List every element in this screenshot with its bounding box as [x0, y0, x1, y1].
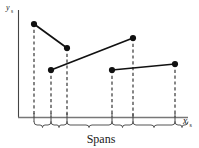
y-axis-label-main: y: [5, 3, 10, 12]
x-axis-label-main: x: [182, 116, 188, 126]
data-point-p5: [130, 35, 136, 41]
droplines-group: [34, 24, 175, 117]
y-axis-label-subscript: s: [11, 8, 13, 14]
span-bracket-2: [51, 122, 67, 128]
data-point-p6: [172, 61, 178, 67]
span-bracket-1: [34, 122, 51, 128]
data-point-p2: [48, 67, 54, 73]
span-brackets-group: [34, 122, 188, 128]
chart-figure: x s y s Spans: [0, 0, 199, 148]
chart-caption: Spans: [87, 132, 116, 146]
span-segment-3: [112, 64, 175, 70]
data-point-p4: [109, 67, 115, 73]
axes-group: [18, 10, 188, 118]
span-segment-2: [51, 38, 133, 70]
span-segments-group: [34, 24, 175, 70]
span-bracket-3: [67, 122, 112, 128]
data-point-p3: [64, 45, 70, 51]
y-axis-label: y s: [5, 3, 13, 14]
spans-plot: x s y s Spans: [0, 0, 199, 148]
span-segment-1: [34, 24, 67, 48]
data-point-p1: [31, 21, 37, 27]
x-axis-label-subscript: s: [190, 122, 193, 128]
span-bracket-5: [133, 122, 175, 128]
span-bracket-4: [112, 122, 133, 128]
